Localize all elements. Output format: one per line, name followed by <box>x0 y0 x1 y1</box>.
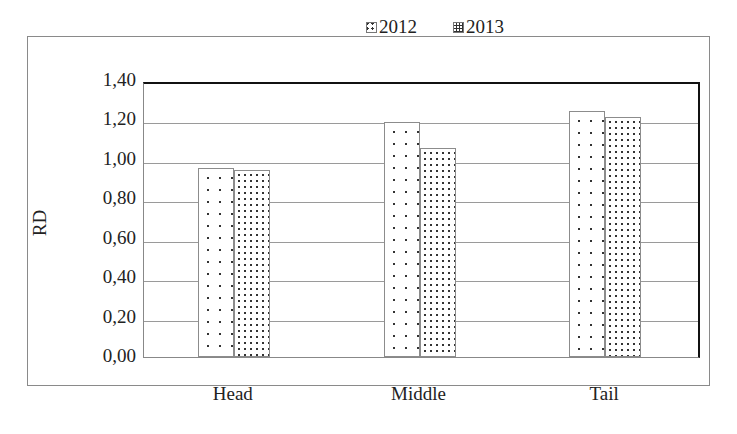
bar-tail-2012 <box>569 111 605 357</box>
legend-swatch-2013-icon <box>453 22 464 33</box>
legend-label-2013: 2013 <box>466 16 504 38</box>
bar-tail-2013 <box>605 117 641 358</box>
y-tick-label: 0,00 <box>70 346 136 366</box>
y-tick-label: 0,20 <box>70 307 136 327</box>
y-tick-label: 0,60 <box>70 228 136 248</box>
bar-middle-2013 <box>420 148 456 357</box>
y-axis-label: RD <box>29 203 51 243</box>
y-tick-label: 0,80 <box>70 188 136 208</box>
legend: 2012 2013 <box>366 16 504 38</box>
plot-area <box>143 82 700 358</box>
y-tick-label: 1,40 <box>70 70 136 90</box>
bar-head-2012 <box>198 168 234 357</box>
bar-middle-2012 <box>384 122 420 357</box>
x-tick-label: Tail <box>544 383 664 405</box>
x-tick-label: Head <box>173 383 293 405</box>
y-tick-label: 1,20 <box>70 109 136 129</box>
y-tick-label: 1,00 <box>70 149 136 169</box>
legend-swatch-2012-icon <box>366 22 377 33</box>
bar-head-2013 <box>234 170 270 357</box>
legend-label-2012: 2012 <box>379 16 417 38</box>
legend-item-2013: 2013 <box>453 16 504 38</box>
x-tick-label: Middle <box>359 383 479 405</box>
legend-item-2012: 2012 <box>366 16 417 38</box>
y-tick-label: 0,40 <box>70 267 136 287</box>
